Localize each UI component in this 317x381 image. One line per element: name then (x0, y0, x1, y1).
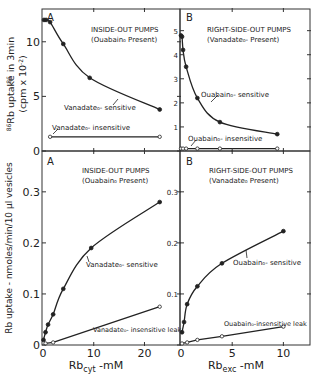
panel-top-a-sensitive-label: Vanadate₀- sensitive (64, 104, 136, 112)
panel-top-b-letter: B (186, 12, 193, 23)
panel-bottom-a-sensitive-label: Vanadate₀- sensitive (86, 261, 158, 269)
y-tick-label: 5 (174, 28, 178, 36)
filled-circle-marker-icon (181, 48, 185, 52)
panel-top-b-sensitive-label: Ouabain₀- sensitive (201, 91, 269, 99)
series-line (44, 202, 160, 340)
arrow-icon (246, 250, 247, 258)
panel-bottom-b-letter: B (186, 156, 193, 167)
y-tick-label: 0.1 (167, 291, 178, 299)
y-tick-label: 0.3 (23, 186, 41, 199)
open-circle-marker-icon (158, 305, 161, 308)
annotations: A INSIDE-OUT PUMPS (Ouabain₀ Present) Va… (47, 12, 307, 334)
open-circle-marker-icon (220, 335, 223, 338)
filled-circle-marker-icon (44, 330, 48, 334)
x-tick-label: 0 (178, 347, 185, 360)
filled-circle-marker-icon (275, 132, 279, 136)
panel-top-b-title: RIGHT-SIDE-OUT PUMPS (207, 26, 292, 34)
y-tick-label: 0 (33, 145, 40, 158)
panel-bottom-b-sensitive-label: Ouabain₀- sensitive (233, 259, 301, 267)
filled-circle-marker-icon (158, 108, 162, 112)
filled-circle-marker-icon (218, 120, 222, 124)
panel-bottom-a-subtitle: (Ouabain₀ Present) (82, 177, 148, 185)
filled-circle-marker-icon (61, 287, 65, 291)
filled-circle-marker-icon (220, 261, 224, 265)
y-tick-label: 1 (174, 124, 178, 132)
filled-circle-marker-icon (182, 320, 186, 324)
open-circle-marker-icon (276, 147, 279, 150)
filled-circle-marker-icon (195, 284, 199, 288)
open-circle-marker-icon (158, 135, 161, 138)
y-tick-label: 2 (174, 100, 178, 108)
open-circle-marker-icon (48, 135, 51, 138)
bottom-a-x-axis-label: Rbcyt -mM (69, 359, 124, 374)
y-tick-label: 0.2 (23, 237, 41, 250)
y-tick-label: 4 (174, 52, 179, 60)
panel-top-a-title: INSIDE-OUT PUMPS (91, 26, 159, 34)
open-circle-marker-icon (185, 341, 188, 344)
x-tick-label: 0 (40, 347, 47, 360)
x-tick-label: 10 (276, 347, 290, 360)
filled-circle-marker-icon (61, 42, 65, 46)
y-tick-label: 0.1 (23, 288, 41, 301)
filled-circle-marker-icon (89, 246, 93, 250)
filled-circle-marker-icon (195, 96, 199, 100)
bottom-y-axis-label: Rb uptake - nmoles/min/10 µl vesicles (4, 162, 14, 334)
panel-bottom-b-insensitive-label: Ouabain₀-insensitive leak (224, 320, 307, 328)
filled-circle-marker-icon (42, 338, 46, 342)
filled-circle-marker-icon (51, 312, 55, 316)
y-tick-label: 10 (26, 36, 40, 49)
top-y-axis-label-line2: (cpm x 10-2) (17, 55, 28, 113)
figure: 86 86Rb uptake in 3min (cpm x 10-2) Rb u… (0, 0, 317, 381)
y-tick-label: 0.2 (167, 240, 178, 248)
y-tick-label: 0.3 (167, 189, 178, 197)
open-circle-marker-icon (218, 147, 221, 150)
open-circle-marker-icon (196, 338, 199, 341)
x-tick-label: 20 (137, 347, 151, 360)
y-tick-label: 5 (33, 90, 40, 103)
filled-circle-marker-icon (88, 76, 92, 80)
panel-bottom-a-title: INSIDE-OUT PUMPS (82, 167, 150, 175)
open-circle-marker-icon (184, 147, 187, 150)
panel-top-b-insensitive-label: Ouabain₀- insensitive (188, 135, 262, 143)
y-tick-label: 3 (174, 76, 178, 84)
panel-top-b-subtitle: (Vanadate₀- Present) (207, 36, 280, 44)
panel-top-a-letter: A (47, 12, 54, 23)
filled-circle-marker-icon (184, 65, 188, 69)
open-circle-marker-icon (51, 341, 54, 344)
panel-bottom-a-letter: A (47, 156, 54, 167)
x-tick-label: 5 (229, 347, 236, 360)
series-line (182, 231, 283, 332)
panel-bottom-a-insensitive-label: Vanadate₀- insensitive leak (93, 326, 181, 334)
top-y-axis-label-line1: 86Rb uptake in 3min (5, 37, 16, 132)
panel-bottom-b-title: RIGHT-SIDE-OUT PUMPS (209, 167, 294, 175)
bottom-b-x-axis-label: Rbexc -mM (208, 359, 264, 374)
series-line (181, 35, 277, 134)
panel-top-a-subtitle: (Ouabain₀ Present) (91, 36, 157, 44)
filled-circle-marker-icon (281, 229, 285, 233)
open-circle-marker-icon (196, 147, 199, 150)
filled-circle-marker-icon (158, 200, 162, 204)
panel-top-a-insensitive-label: Vanadate₀- insensitive (52, 124, 130, 132)
panel-bottom-b-subtitle: (Vanadate₀ Present) (209, 177, 279, 185)
x-tick-label: 10 (87, 347, 101, 360)
plot-bottom-a (42, 200, 162, 345)
filled-circle-marker-icon (46, 323, 50, 327)
filled-circle-marker-icon (180, 35, 184, 39)
filled-circle-marker-icon (185, 302, 189, 306)
